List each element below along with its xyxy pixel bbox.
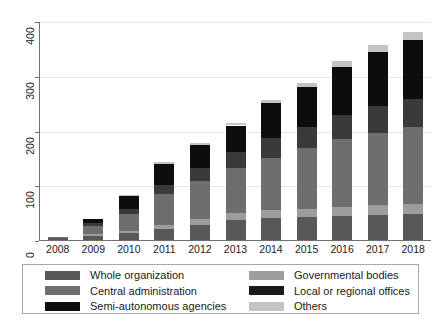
bar-segment[interactable] bbox=[83, 234, 103, 236]
bar-segment[interactable] bbox=[154, 194, 174, 224]
bar-segment[interactable] bbox=[403, 32, 423, 40]
x-axis-tick-label: 2014 bbox=[253, 243, 289, 255]
y-axis-tick-label: 100 bbox=[24, 185, 36, 215]
bar-segment[interactable] bbox=[190, 181, 210, 218]
bar-segment[interactable] bbox=[332, 139, 352, 207]
bar-segment[interactable] bbox=[368, 106, 388, 132]
bar-segment[interactable] bbox=[368, 45, 388, 52]
bar-segment[interactable] bbox=[83, 223, 103, 226]
stacked-bar[interactable] bbox=[297, 83, 317, 241]
stacked-bar[interactable] bbox=[226, 123, 246, 241]
bar-group[interactable] bbox=[226, 22, 246, 241]
chart-legend: Whole organizationCentral administration… bbox=[22, 264, 419, 314]
bar-segment[interactable] bbox=[154, 162, 174, 164]
legend-label: Others bbox=[294, 299, 327, 313]
x-axis-tick-label: 2015 bbox=[289, 243, 325, 255]
bar-segment[interactable] bbox=[332, 216, 352, 241]
stacked-bar[interactable] bbox=[368, 45, 388, 241]
bar-group[interactable] bbox=[48, 22, 68, 241]
bar-segment[interactable] bbox=[261, 138, 281, 158]
legend-swatch bbox=[249, 286, 284, 295]
bar-group[interactable] bbox=[261, 22, 281, 241]
stacked-bar[interactable] bbox=[83, 219, 103, 241]
x-axis-tick-label: 2017 bbox=[360, 243, 396, 255]
bar-segment[interactable] bbox=[403, 127, 423, 204]
bar-segment[interactable] bbox=[154, 225, 174, 229]
stacked-bar[interactable] bbox=[119, 195, 139, 241]
bar-segment[interactable] bbox=[119, 209, 139, 214]
legend-swatch bbox=[249, 302, 284, 311]
bar-segment[interactable] bbox=[190, 143, 210, 145]
bar-segment[interactable] bbox=[48, 237, 68, 238]
bar-segment[interactable] bbox=[368, 215, 388, 241]
x-axis-tick-label: 2008 bbox=[40, 243, 76, 255]
legend-label: Governmental bodies bbox=[294, 268, 399, 282]
bar-segment[interactable] bbox=[368, 205, 388, 214]
bar-segment[interactable] bbox=[297, 217, 317, 241]
bar-segment[interactable] bbox=[226, 168, 246, 213]
bar-segment[interactable] bbox=[297, 87, 317, 126]
x-axis-line bbox=[39, 240, 431, 241]
legend-swatch bbox=[45, 286, 80, 295]
x-axis-tick-label: 2009 bbox=[76, 243, 112, 255]
bar-segment[interactable] bbox=[119, 231, 139, 234]
bar-segment[interactable] bbox=[154, 185, 174, 195]
bar-group[interactable] bbox=[332, 22, 352, 241]
bar-segment[interactable] bbox=[119, 195, 139, 196]
legend-swatch bbox=[249, 271, 284, 280]
bar-segment[interactable] bbox=[261, 218, 281, 241]
bar-segment[interactable] bbox=[83, 219, 103, 223]
bar-segment[interactable] bbox=[332, 115, 352, 139]
legend-label: Whole organization bbox=[90, 268, 184, 282]
bar-segment[interactable] bbox=[190, 219, 210, 225]
y-axis-tick-label: 200 bbox=[24, 131, 36, 161]
legend-swatch bbox=[45, 302, 80, 311]
bar-group[interactable] bbox=[119, 22, 139, 241]
bar-group[interactable] bbox=[154, 22, 174, 241]
bar-segment[interactable] bbox=[297, 209, 317, 217]
bar-segment[interactable] bbox=[119, 214, 139, 230]
bar-segment[interactable] bbox=[368, 133, 388, 206]
bar-segment[interactable] bbox=[297, 148, 317, 208]
bar-segment[interactable] bbox=[190, 225, 210, 241]
bar-segment[interactable] bbox=[261, 100, 281, 103]
bar-group[interactable] bbox=[297, 22, 317, 241]
bar-segment[interactable] bbox=[190, 145, 210, 168]
bar-segment[interactable] bbox=[297, 83, 317, 87]
bar-group[interactable] bbox=[83, 22, 103, 241]
bar-segment[interactable] bbox=[261, 158, 281, 211]
y-axis-line bbox=[39, 22, 40, 241]
x-axis-tick-label: 2016 bbox=[324, 243, 360, 255]
bar-segment[interactable] bbox=[403, 214, 423, 241]
bar-segment[interactable] bbox=[119, 196, 139, 209]
bar-segment[interactable] bbox=[332, 207, 352, 216]
bar-group[interactable] bbox=[190, 22, 210, 241]
bar-segment[interactable] bbox=[403, 204, 423, 214]
bar-segment[interactable] bbox=[297, 127, 317, 149]
stacked-bar[interactable] bbox=[332, 61, 352, 241]
bar-segment[interactable] bbox=[261, 210, 281, 218]
stacked-bar[interactable] bbox=[154, 162, 174, 241]
bar-segment[interactable] bbox=[226, 126, 246, 152]
stacked-bar[interactable] bbox=[190, 143, 210, 241]
bar-segment[interactable] bbox=[190, 168, 210, 181]
bar-segment[interactable] bbox=[226, 152, 246, 168]
bar-segment[interactable] bbox=[154, 164, 174, 185]
bar-segment[interactable] bbox=[83, 226, 103, 234]
bar-segment[interactable] bbox=[403, 99, 423, 127]
bar-segment[interactable] bbox=[332, 67, 352, 115]
bar-segment[interactable] bbox=[403, 40, 423, 99]
bar-segment[interactable] bbox=[261, 103, 281, 138]
bar-group[interactable] bbox=[403, 22, 423, 241]
bar-segment[interactable] bbox=[226, 213, 246, 220]
legend-swatch bbox=[45, 271, 80, 280]
stacked-bar-chart: 0100200300400 20082009201020112012201320… bbox=[0, 0, 441, 328]
bar-group[interactable] bbox=[368, 22, 388, 241]
bar-segment[interactable] bbox=[226, 220, 246, 241]
stacked-bar[interactable] bbox=[261, 100, 281, 241]
bar-segment[interactable] bbox=[332, 61, 352, 66]
legend-label: Local or regional offices bbox=[294, 284, 410, 298]
stacked-bar[interactable] bbox=[403, 32, 423, 241]
bar-segment[interactable] bbox=[368, 52, 388, 107]
bar-segment[interactable] bbox=[226, 123, 246, 125]
